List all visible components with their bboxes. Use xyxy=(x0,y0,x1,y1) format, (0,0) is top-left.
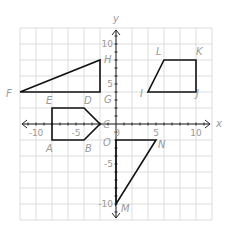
y-tick-label: -5 xyxy=(104,159,113,169)
x-axis-label: x xyxy=(215,118,222,129)
vertex-label-L: L xyxy=(156,46,162,57)
x-tick-label: -10 xyxy=(29,128,44,138)
vertex-label-O: O xyxy=(103,137,111,148)
vertex-label-G: G xyxy=(104,94,112,105)
vertex-label-M: M xyxy=(121,203,130,214)
y-tick-label: -10 xyxy=(98,199,113,209)
vertex-label-F: F xyxy=(6,88,12,99)
y-axis-label: y xyxy=(112,13,120,24)
y-tick-label: 5 xyxy=(107,79,113,89)
vertex-label-N: N xyxy=(158,139,166,150)
vertex-label-H: H xyxy=(104,54,112,65)
vertex-label-C: C xyxy=(103,119,110,130)
x-tick-label: 5 xyxy=(153,128,159,138)
coordinate-plane: xy -10-50510105-5-10 FGHEDCBALKIJONM xyxy=(0,0,227,239)
x-tick-label: 10 xyxy=(190,128,202,138)
vertex-label-E: E xyxy=(46,95,53,106)
vertex-label-A: A xyxy=(45,143,53,154)
y-tick-label: 10 xyxy=(102,39,114,49)
x-tick-label: -5 xyxy=(72,128,81,138)
x-tick-label: 0 xyxy=(114,128,120,138)
vertex-label-B: B xyxy=(85,143,92,154)
vertex-label-K: K xyxy=(196,46,204,57)
vertex-label-J: J xyxy=(194,88,199,99)
vertex-label-D: D xyxy=(84,95,92,106)
vertex-label-I: I xyxy=(140,88,143,99)
